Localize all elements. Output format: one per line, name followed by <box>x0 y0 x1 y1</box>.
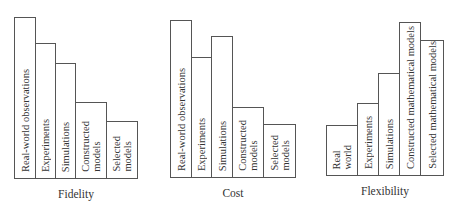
chart-flexibility: Real worldExperimentsSimulationsConstruc… <box>326 0 444 206</box>
bar-label: Simulations <box>384 119 395 169</box>
bar-label: Selected models <box>269 135 291 171</box>
bar: Constructed models <box>75 102 107 179</box>
bar: Selected models <box>263 124 296 178</box>
bar: Real-world observations <box>14 17 36 179</box>
bar-label: Experiments <box>196 118 207 171</box>
bar-label: Constructed mathematical models <box>405 26 416 169</box>
bar: Simulations <box>211 36 233 178</box>
bar-label: Experiments <box>40 119 51 172</box>
bar-label: Constructed models <box>237 120 259 171</box>
bar-label: Real world <box>331 145 353 170</box>
bar: Selected models <box>106 121 138 179</box>
bar: Simulations <box>55 63 76 179</box>
bar-label: Simulations <box>60 122 71 172</box>
bar-label: Real-world observations <box>20 69 31 172</box>
chart-title: Cost <box>170 187 296 199</box>
chart-title: Fidelity <box>14 188 138 200</box>
bar: Constructed models <box>232 107 264 178</box>
bar: Real world <box>326 125 358 176</box>
bar: Experiments <box>357 103 379 176</box>
chart-fidelity: Real-world observationsExperimentsSimula… <box>14 0 138 206</box>
bar: Experiments <box>35 43 56 179</box>
bar: Selected mathematical models <box>420 40 444 176</box>
bar-label: Selected models <box>111 136 133 172</box>
bar-label: Selected mathematical models <box>427 41 438 169</box>
bar-label: Constructed models <box>80 121 102 172</box>
bar: Constructed mathematical models <box>399 22 421 176</box>
bar: Experiments <box>191 57 212 178</box>
bar-label: Real-world observations <box>176 68 187 171</box>
chart-cost: Real-world observationsExperimentsSimula… <box>170 0 296 206</box>
chart-title: Flexibility <box>326 185 444 197</box>
bar-label: Experiments <box>363 116 374 169</box>
bar: Simulations <box>378 73 400 176</box>
bar: Real-world observations <box>170 20 192 178</box>
bar-label: Simulations <box>217 121 228 171</box>
